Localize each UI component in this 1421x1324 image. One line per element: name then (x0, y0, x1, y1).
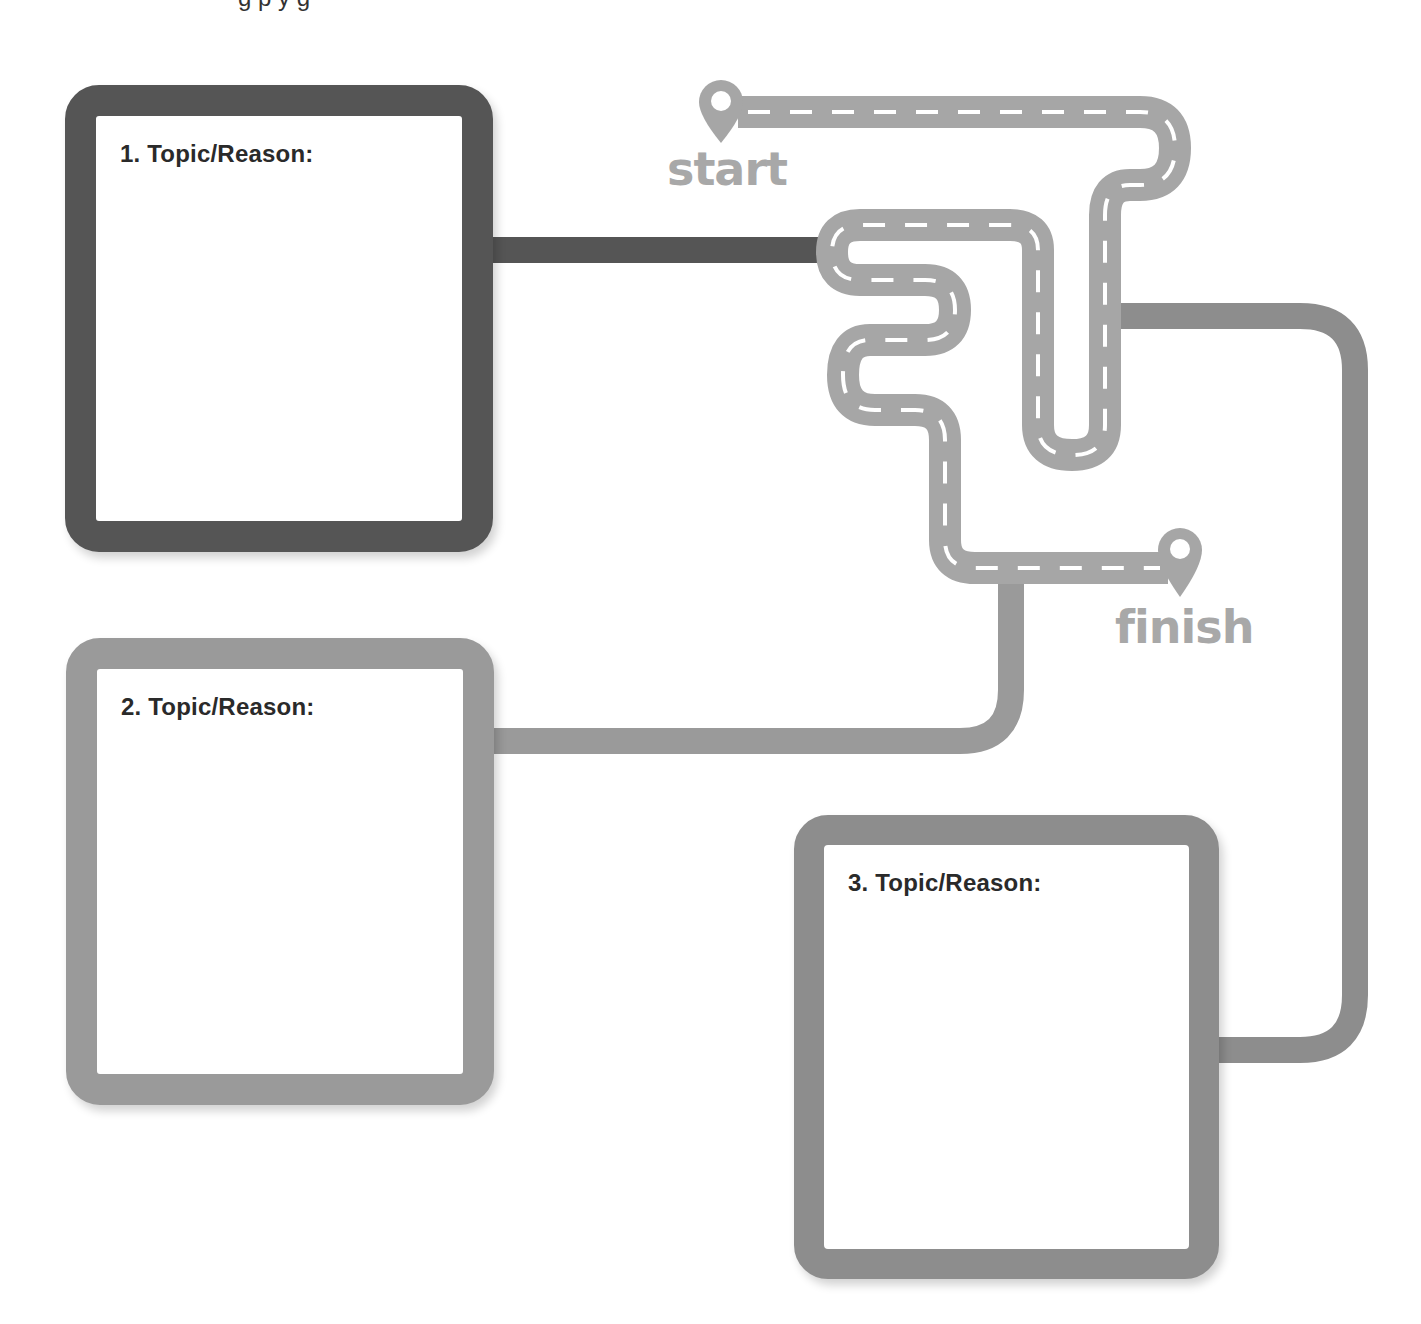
box-1-label: 1. Topic/Reason: (120, 140, 313, 168)
winding-road (738, 112, 1175, 568)
finish-pin-icon (1158, 528, 1202, 597)
start-pin-icon (699, 80, 743, 143)
box-2-label: 2. Topic/Reason: (121, 693, 314, 721)
topic-reason-road-organizer: g p y g start finish (0, 0, 1421, 1324)
box-3-label: 3. Topic/Reason: (848, 869, 1041, 897)
connector-box-2 (490, 580, 1011, 741)
finish-label: finish (1115, 600, 1253, 654)
topic-reason-box-2[interactable]: 2. Topic/Reason: (66, 638, 494, 1105)
start-label: start (667, 142, 787, 196)
topic-reason-box-3[interactable]: 3. Topic/Reason: (794, 815, 1219, 1279)
topic-reason-box-1[interactable]: 1. Topic/Reason: (65, 85, 493, 552)
